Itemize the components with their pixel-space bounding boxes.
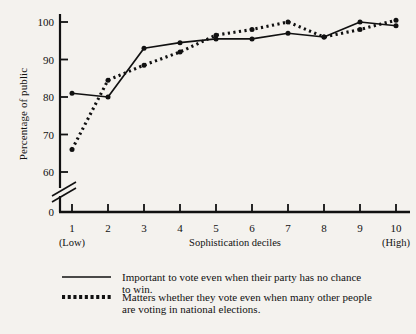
data-point (250, 36, 255, 41)
legend-item-1-line-1: Important to vote even when their party … (122, 271, 361, 283)
data-point (142, 63, 147, 68)
y-axis-tick-label: 60 (43, 166, 55, 178)
x-axis-low-label: (Low) (59, 237, 86, 249)
data-point (106, 78, 111, 83)
x-axis-tick-label: 5 (213, 222, 219, 234)
data-point (358, 20, 363, 25)
data-point (178, 50, 183, 55)
x-axis-tick-label: 10 (391, 222, 403, 234)
data-point (214, 33, 219, 38)
x-axis-tick-label: 4 (177, 222, 183, 234)
x-axis-tick-label: 1 (69, 222, 75, 234)
data-point (106, 95, 111, 100)
y-axis-tick-label: 80 (43, 91, 55, 103)
chart-figure: Percentage of public 60708090100 1234567… (0, 0, 416, 334)
data-point (394, 18, 399, 23)
data-point (286, 31, 291, 36)
data-point (178, 40, 183, 45)
x-axis-tick-group: 12345678910 (69, 204, 402, 234)
data-point (394, 23, 399, 28)
data-point (322, 35, 327, 40)
data-point (250, 27, 255, 32)
data-point (142, 46, 147, 51)
y-axis-tick-label: 100 (38, 16, 55, 28)
x-axis-tick-label: 9 (357, 222, 363, 234)
data-point (358, 27, 363, 32)
data-point (70, 147, 75, 152)
data-point (70, 91, 75, 96)
x-axis-tick-label: 7 (285, 222, 291, 234)
x-axis-tick-label: 6 (249, 222, 255, 234)
x-axis-label: Sophistication deciles (189, 237, 281, 248)
y-axis-tick-label: 70 (43, 129, 55, 141)
legend: Important to vote even when their party … (62, 271, 372, 315)
y-axis-tick-group: 60708090100 (38, 16, 69, 178)
legend-item-2-line-1: Matters whether they vote even when many… (122, 291, 372, 303)
y-tick-label-zero: 0 (49, 206, 55, 218)
data-point (286, 20, 291, 25)
x-axis-high-label: (High) (382, 237, 410, 249)
x-axis-tick-label: 3 (141, 222, 147, 234)
series-markers-matters-whether-they-vote (70, 18, 399, 152)
y-axis-tick-label: 90 (43, 54, 55, 66)
legend-item-2-line-2: are voting in national elections. (122, 303, 261, 315)
axis-break-icon (52, 182, 76, 202)
x-axis-tick-label: 8 (321, 222, 327, 234)
chart-canvas: 60708090100 12345678910 0 Sophistication… (0, 0, 416, 334)
x-axis-tick-label: 2 (105, 222, 111, 234)
